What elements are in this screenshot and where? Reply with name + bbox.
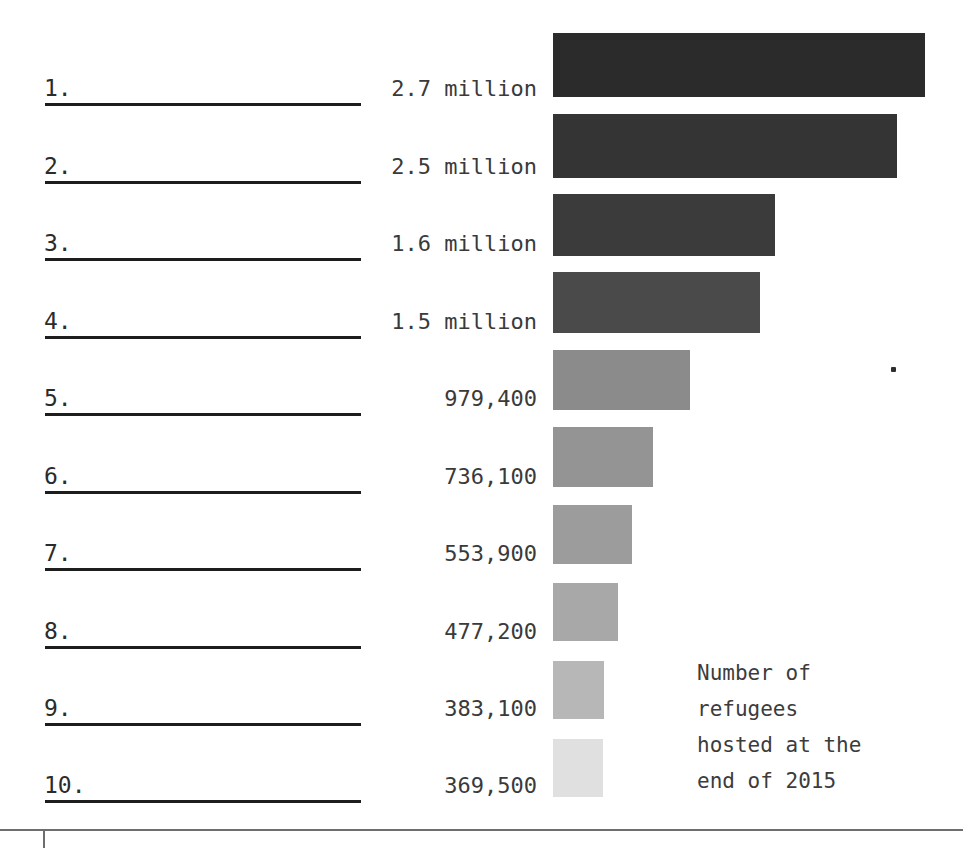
ranking-row: 3.1.6 million — [0, 183, 963, 261]
footer-horizontal-rule — [0, 829, 963, 831]
rank-number: 10. — [44, 774, 86, 797]
footer-vertical-rule — [43, 831, 45, 848]
value-label: 2.7 million — [245, 78, 537, 100]
rank-number: 6. — [44, 465, 72, 488]
bar — [553, 350, 690, 410]
caption-line: end of 2015 — [697, 763, 947, 799]
bar — [553, 505, 632, 564]
bar — [553, 33, 925, 97]
rank-number: 2. — [44, 155, 72, 178]
value-label: 2.5 million — [245, 156, 537, 178]
caption-line: refugees — [697, 691, 947, 727]
ranking-row: 4.1.5 million — [0, 261, 963, 339]
bar — [553, 194, 775, 256]
bar — [553, 114, 897, 178]
value-label: 736,100 — [245, 466, 537, 488]
value-label: 979,400 — [245, 388, 537, 410]
caption-line: Number of — [697, 655, 947, 691]
rank-number: 1. — [44, 77, 72, 100]
bar — [553, 272, 760, 333]
chart-caption: Number ofrefugeeshosted at theend of 201… — [697, 655, 947, 799]
ranking-row: 7.553,900 — [0, 493, 963, 571]
value-label: 1.5 million — [245, 311, 537, 333]
value-label: 369,500 — [245, 775, 537, 797]
rank-number: 4. — [44, 310, 72, 333]
ink-speck-artifact — [891, 367, 896, 372]
rank-number: 9. — [44, 697, 72, 720]
ranking-row: 5.979,400 — [0, 338, 963, 416]
rank-number: 3. — [44, 232, 72, 255]
ranking-row: 6.736,100 — [0, 416, 963, 494]
caption-line: hosted at the — [697, 727, 947, 763]
answer-blank-line[interactable] — [45, 800, 361, 803]
bar — [553, 583, 618, 641]
rank-number: 5. — [44, 387, 72, 410]
rank-number: 7. — [44, 542, 72, 565]
value-label: 383,100 — [245, 698, 537, 720]
worksheet-page: 1.2.7 million2.2.5 million3.1.6 million4… — [0, 0, 963, 848]
bar — [553, 427, 653, 487]
value-label: 477,200 — [245, 621, 537, 643]
ranking-row: 8.477,200 — [0, 571, 963, 649]
bar — [553, 739, 603, 797]
value-label: 1.6 million — [245, 233, 537, 255]
bar — [553, 661, 604, 719]
value-label: 553,900 — [245, 543, 537, 565]
rank-number: 8. — [44, 620, 72, 643]
